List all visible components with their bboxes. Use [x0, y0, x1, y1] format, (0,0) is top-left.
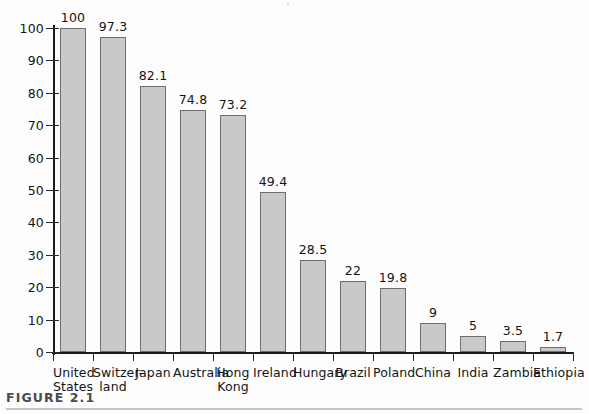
- bar[interactable]: [540, 347, 566, 353]
- bar-slot: 22: [340, 28, 366, 352]
- bar-slot: 19.8: [380, 28, 406, 352]
- bar-value-label: 74.8: [179, 92, 208, 107]
- bar-slot: 100: [60, 28, 86, 352]
- bar-slot: 28.5: [300, 28, 326, 352]
- category-label: Brazil: [333, 366, 373, 380]
- bar-slot: 82.1: [140, 28, 166, 352]
- x-tick-mark: [573, 352, 574, 361]
- bar[interactable]: [100, 37, 126, 352]
- bar[interactable]: [60, 28, 86, 352]
- bar[interactable]: [140, 86, 166, 352]
- bar-value-label: 100: [61, 10, 85, 25]
- x-tick-mark: [213, 352, 214, 361]
- x-axis-line: [52, 352, 573, 354]
- bar-value-label: 73.2: [219, 97, 248, 112]
- y-tick-mark: [46, 222, 59, 223]
- x-tick-mark: [293, 352, 294, 361]
- y-tick-label: 20: [28, 280, 44, 295]
- page-speck: [287, 2, 289, 5]
- category-label: Poland: [373, 366, 413, 380]
- x-tick-mark: [53, 352, 54, 361]
- x-tick-mark: [253, 352, 254, 361]
- bar-slot: 97.3: [100, 28, 126, 352]
- bar-slot: 5: [460, 28, 486, 352]
- caption-rule: [6, 408, 582, 410]
- category-label: Japan: [133, 366, 173, 380]
- y-tick-mark: [46, 158, 59, 159]
- y-tick-mark: [46, 287, 59, 288]
- y-tick-mark: [46, 93, 59, 94]
- y-tick-mark: [46, 320, 59, 321]
- bar-slot: 73.2: [220, 28, 246, 352]
- bar-chart-plot-area: 0102030405060708090100 10097.382.174.873…: [53, 28, 573, 352]
- y-tick-label: 40: [28, 215, 44, 230]
- bar-value-label: 3.5: [503, 323, 523, 338]
- x-tick-mark: [333, 352, 334, 361]
- bar-slot: 3.5: [500, 28, 526, 352]
- category-label: Zambia: [493, 366, 533, 380]
- bar-value-label: 97.3: [99, 19, 128, 34]
- bar-value-label: 5: [469, 318, 477, 333]
- bar[interactable]: [340, 281, 366, 352]
- y-tick-mark: [46, 60, 59, 61]
- category-label: China: [413, 366, 453, 380]
- bar-value-label: 22: [345, 263, 361, 278]
- category-label: India: [453, 366, 493, 380]
- y-tick-mark: [46, 125, 59, 126]
- bar[interactable]: [420, 323, 446, 352]
- figure-page: 0102030405060708090100 10097.382.174.873…: [0, 0, 589, 414]
- x-tick-mark: [173, 352, 174, 361]
- bar[interactable]: [260, 192, 286, 352]
- y-tick-label: 80: [28, 85, 44, 100]
- bar-value-label: 19.8: [379, 270, 408, 285]
- bar-slot: 74.8: [180, 28, 206, 352]
- bar[interactable]: [380, 288, 406, 352]
- x-tick-mark: [133, 352, 134, 361]
- bar[interactable]: [460, 336, 486, 352]
- y-tick-label: 60: [28, 150, 44, 165]
- bar[interactable]: [300, 260, 326, 352]
- x-tick-mark: [533, 352, 534, 361]
- bar-value-label: 1.7: [543, 329, 563, 344]
- category-label: Switzer-land: [93, 366, 133, 394]
- y-tick-mark: [46, 255, 59, 256]
- bar-slot: 1.7: [540, 28, 566, 352]
- y-tick-label: 100: [20, 21, 44, 36]
- y-tick-label: 0: [36, 345, 44, 360]
- category-label: Hungary: [293, 366, 333, 380]
- x-tick-mark: [413, 352, 414, 361]
- bar-value-label: 9: [429, 305, 437, 320]
- y-tick-label: 10: [28, 312, 44, 327]
- x-tick-mark: [373, 352, 374, 361]
- bar-value-label: 49.4: [259, 174, 288, 189]
- bar-slot: 49.4: [260, 28, 286, 352]
- bar[interactable]: [220, 115, 246, 352]
- y-tick-label: 30: [28, 247, 44, 262]
- y-tick-mark: [46, 28, 59, 29]
- bar[interactable]: [180, 110, 206, 352]
- x-tick-mark: [453, 352, 454, 361]
- y-tick-label: 50: [28, 183, 44, 198]
- y-tick-mark: [46, 190, 59, 191]
- bar-value-label: 82.1: [139, 68, 168, 83]
- category-label: Ethiopia: [533, 366, 573, 380]
- x-tick-mark: [93, 352, 94, 361]
- category-label: Australia: [173, 366, 213, 380]
- x-tick-mark: [493, 352, 494, 361]
- category-label: HongKong: [213, 366, 253, 394]
- bar-slot: 9: [420, 28, 446, 352]
- figure-caption: FIGURE 2.1: [6, 390, 95, 405]
- bar[interactable]: [500, 341, 526, 352]
- y-tick-label: 70: [28, 118, 44, 133]
- bar-value-label: 28.5: [299, 242, 328, 257]
- y-tick-label: 90: [28, 53, 44, 68]
- category-label: Ireland: [253, 366, 293, 380]
